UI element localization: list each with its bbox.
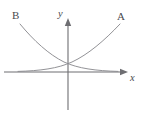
y-axis-arrowhead	[65, 18, 71, 26]
x-axis-arrowhead	[120, 69, 128, 75]
curve-a-label: A	[117, 11, 125, 22]
curve-b-label: B	[12, 10, 19, 21]
y-axis-label: y	[58, 9, 63, 20]
figure-container: B A y x	[0, 0, 141, 119]
x-axis-label: x	[130, 73, 135, 84]
curve-b-path	[20, 24, 118, 71]
